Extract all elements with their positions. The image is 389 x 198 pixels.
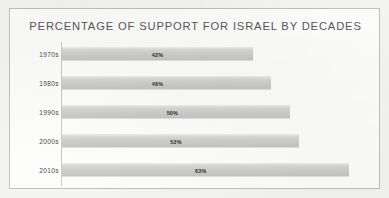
- bar-track-2010s: 63%: [62, 163, 349, 176]
- bar-value-1990s: 50%: [167, 109, 178, 115]
- bar-2000s[interactable]: 52%: [62, 134, 299, 147]
- bar-value-1980s: 46%: [152, 81, 163, 87]
- category-label-1990s: 1990s: [39, 108, 59, 115]
- bar-row: 1990s 50%: [10, 98, 380, 127]
- scanned-page: PERCENTAGE OF SUPPORT FOR ISRAEL BY DECA…: [0, 0, 389, 198]
- plot-area: 1970s 42% 1980s 46% 1990s: [10, 40, 380, 188]
- category-label-1980s: 1980s: [39, 80, 59, 87]
- bar-1970s[interactable]: 42%: [62, 48, 253, 61]
- bar-value-1970s: 42%: [152, 52, 163, 58]
- bar-row: 1970s 42%: [10, 40, 380, 69]
- category-label-2000s: 2000s: [39, 137, 59, 144]
- category-label-1970s: 1970s: [39, 51, 59, 58]
- chart-title: PERCENTAGE OF SUPPORT FOR ISRAEL BY DECA…: [10, 20, 380, 32]
- bar-track-1990s: 50%: [62, 105, 290, 118]
- bar-2010s[interactable]: 63%: [62, 163, 349, 176]
- bar-1980s[interactable]: 46%: [62, 77, 271, 90]
- bar-track-2000s: 52%: [62, 134, 299, 147]
- bar-track-1980s: 46%: [62, 77, 271, 90]
- bar-row: 2010s 63%: [10, 155, 380, 184]
- bar-track-1970s: 42%: [62, 48, 253, 61]
- category-label-2010s: 2010s: [39, 166, 59, 173]
- bar-value-2000s: 52%: [170, 138, 181, 144]
- bar-value-2010s: 63%: [195, 167, 206, 173]
- bar-row: 2000s 52%: [10, 126, 380, 155]
- bar-1990s[interactable]: 50%: [62, 105, 290, 118]
- bar-row: 1980s 46%: [10, 69, 380, 98]
- chart-frame: PERCENTAGE OF SUPPORT FOR ISRAEL BY DECA…: [9, 8, 380, 189]
